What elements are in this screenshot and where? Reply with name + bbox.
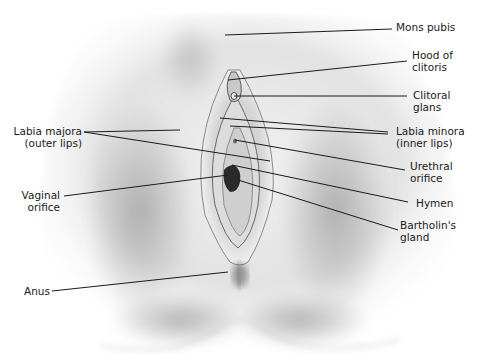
label-bartholins-gland: Bartholin's gland: [400, 219, 456, 243]
label-labia-minora: Labia minora (inner lips): [396, 125, 465, 149]
label-mons-pubis: Mons pubis: [396, 21, 455, 33]
label-hymen: Hymen: [416, 197, 453, 209]
label-anus: Anus: [10, 285, 50, 297]
label-labia-majora: Labia majora (outer lips): [10, 125, 82, 149]
label-clitoral-glans: Clitoral glans: [413, 89, 450, 113]
label-hood-of-clitoris: Hood of clitoris: [412, 49, 453, 73]
anatomy-diagram: Mons pubis Hood of clitoris Clitoral gla…: [0, 0, 477, 362]
label-vaginal-orifice: Vaginal orifice: [10, 189, 60, 213]
genitalia-illustration: [0, 0, 477, 362]
label-urethral-orifice: Urethral orifice: [410, 160, 453, 184]
